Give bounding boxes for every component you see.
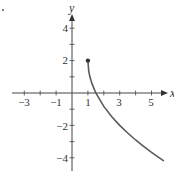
x-axis-label: x	[169, 86, 174, 100]
y-tick-label: 2	[63, 54, 69, 66]
x-tick-labels: −3 −1 1 3 5	[18, 96, 154, 108]
x-tick-label: −3	[18, 96, 30, 108]
function-graph: −3 −1 1 3 5 x 4 2 −2 −4 y	[0, 0, 174, 171]
y-axis: 4 2 −2 −4 y	[56, 1, 75, 171]
y-tick-label: −2	[56, 120, 68, 132]
function-curve	[88, 61, 163, 161]
closed-endpoint-dot	[86, 58, 90, 62]
x-tick-label: 1	[85, 96, 91, 108]
y-axis-arrow-icon	[69, 14, 75, 21]
y-tick-label: 4	[63, 22, 69, 34]
x-tick-label: −1	[50, 96, 62, 108]
x-tick-label: 5	[148, 96, 154, 108]
y-axis-label: y	[68, 1, 75, 15]
x-axis: −3 −1 1 3 5 x	[12, 86, 174, 108]
x-axis-arrow-icon	[161, 90, 168, 96]
x-tick-label: 3	[116, 96, 122, 108]
y-tick-label: −4	[56, 152, 68, 164]
